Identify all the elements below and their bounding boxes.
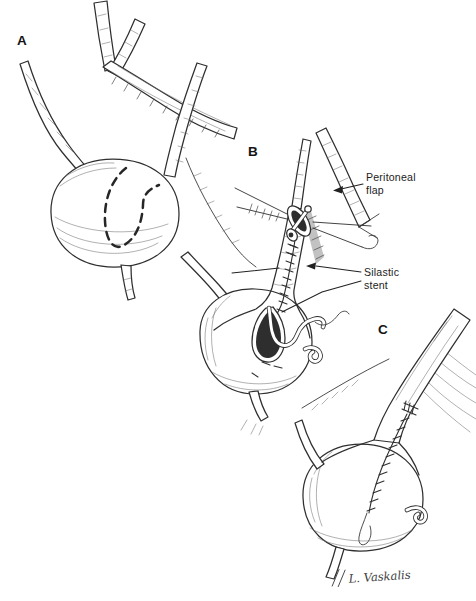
vessel-branch-left <box>94 1 116 71</box>
silastic-stent-arrowhead <box>306 263 316 270</box>
urethra-b <box>249 391 268 421</box>
peritoneal-flap-label-line1: Peritoneal <box>366 171 416 183</box>
ureter-left-c <box>295 420 324 469</box>
ureteral-anastomosis <box>283 202 315 255</box>
urethra-c <box>326 547 344 579</box>
urethra-a <box>121 265 135 300</box>
panel-c-letter: C <box>378 322 388 337</box>
peritoneum-edge-left-b <box>186 158 256 267</box>
silastic-stent-leader-1 <box>232 266 361 273</box>
ureter-left-a <box>20 61 88 175</box>
stay-sutures-right <box>313 222 371 247</box>
artist-signature: L. Vaskalis <box>331 565 411 587</box>
figure-canvas: A <box>0 0 476 601</box>
surgical-illustration: A <box>0 0 476 601</box>
stay-sutures-left <box>235 188 287 219</box>
panel-a-letter: A <box>17 33 27 48</box>
silastic-stent-label-line2: stent <box>364 279 388 291</box>
panel-b-letter: B <box>248 144 258 159</box>
peritoneum-edge-c <box>302 359 389 408</box>
ureter-proximal-b <box>292 139 311 209</box>
panel-c: C <box>295 309 476 579</box>
signature-text: L. Vaskalis <box>347 568 411 586</box>
panel-a: A <box>17 1 237 300</box>
panel-b: B Peritoneal flap Silastic stent <box>181 128 416 435</box>
silastic-stent-label-line1: Silastic <box>364 266 400 278</box>
peritoneal-flap-arrowhead <box>333 186 343 194</box>
peritoneal-flap-label-line2: flap <box>366 184 384 196</box>
bladder-a <box>51 159 179 267</box>
